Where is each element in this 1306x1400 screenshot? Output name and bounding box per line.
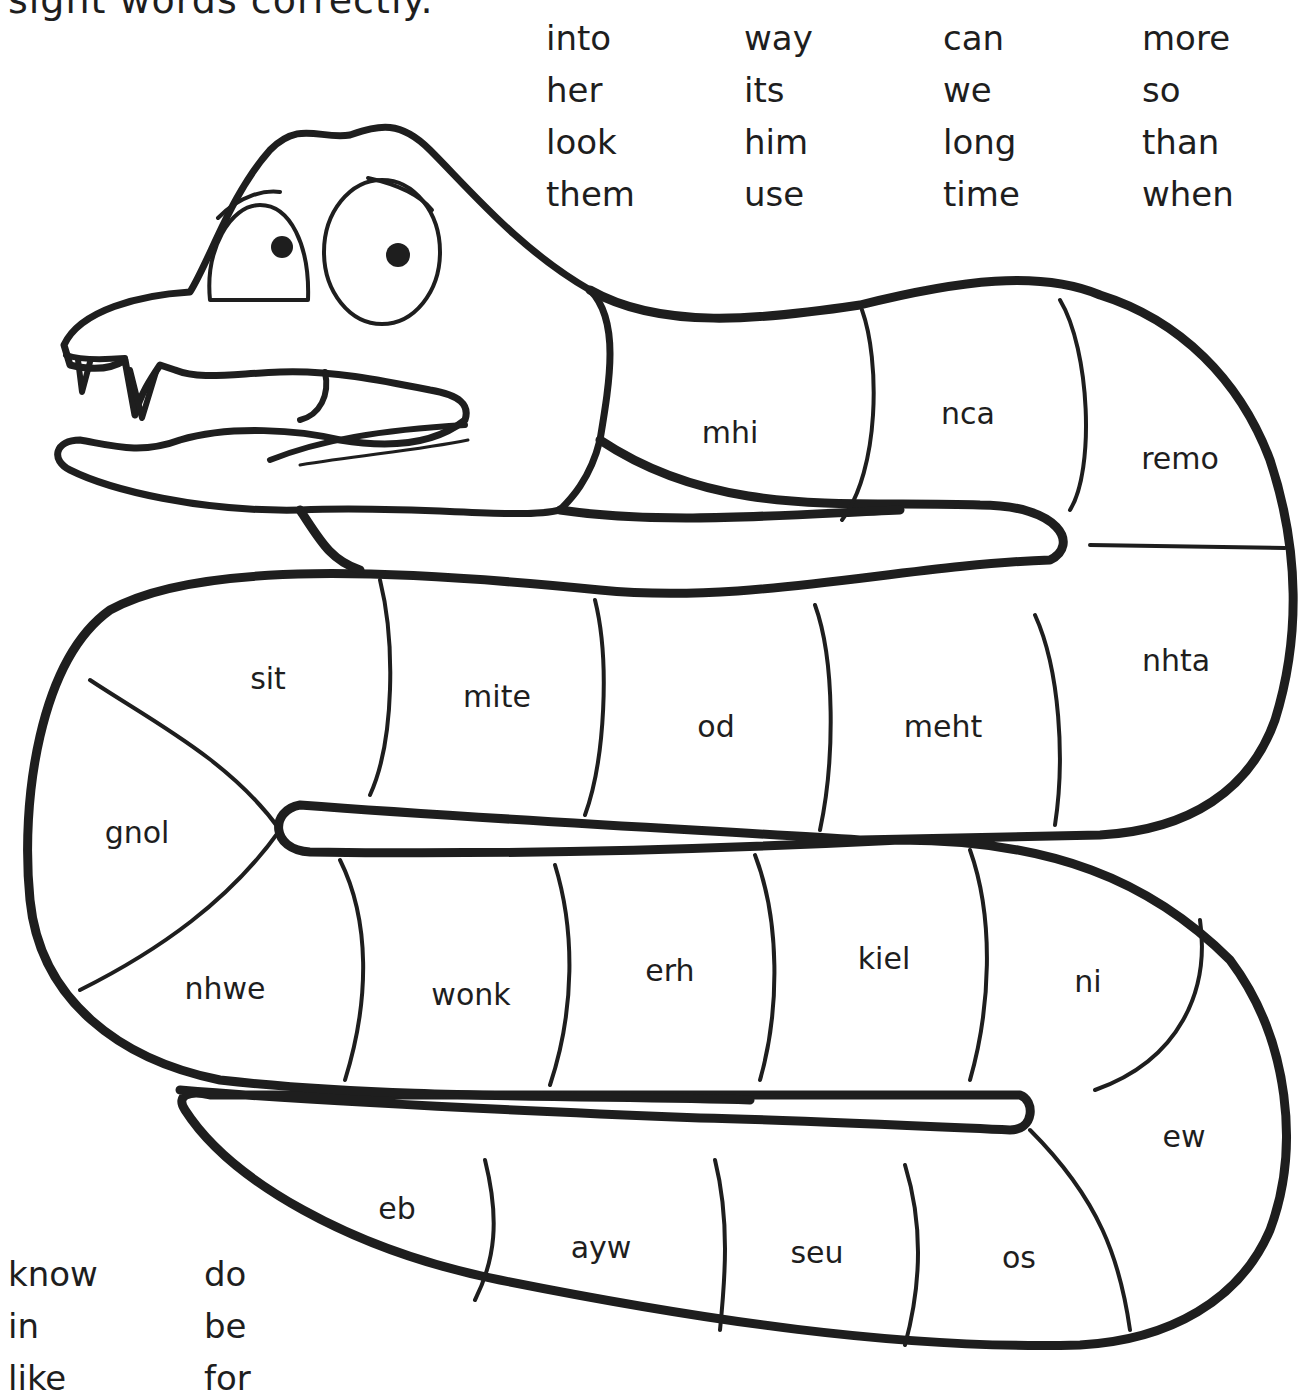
snake-segment-label[interactable]: od (687, 705, 744, 748)
snake-segment-label[interactable]: meht (894, 705, 992, 748)
snake-segment-label[interactable]: gnol (95, 811, 180, 854)
snake-segment-label[interactable]: nhta (1132, 639, 1220, 682)
snake-segment-label[interactable]: sit (240, 657, 296, 700)
snake-segment-label[interactable]: ew (1153, 1115, 1216, 1158)
pupil-right (386, 243, 410, 267)
snake-segment-label[interactable]: ayw (561, 1226, 642, 1269)
snake-segment-label[interactable]: ni (1064, 960, 1111, 1003)
snake-segment-label[interactable]: nca (931, 392, 1005, 435)
snake-segment-label[interactable]: erh (635, 949, 704, 992)
snake-segment-label[interactable]: kiel (848, 937, 921, 980)
snake-eyes (209, 178, 440, 324)
snake-segment-label[interactable]: os (992, 1236, 1046, 1279)
snake-segment-label[interactable]: eb (368, 1187, 426, 1230)
snake-body (28, 281, 1294, 1346)
snake-segment-label[interactable]: wonk (421, 973, 520, 1016)
snake-segment-label[interactable]: remo (1131, 437, 1229, 480)
snake-segment-label[interactable]: seu (780, 1231, 853, 1274)
snake-head (58, 127, 610, 513)
pupil-left (271, 236, 293, 258)
snake-segment-label[interactable]: mite (453, 675, 541, 718)
snake-segment-label[interactable]: nhwe (174, 967, 275, 1010)
snake-segment-label[interactable]: mhi (692, 411, 769, 454)
snake-illustration (0, 0, 1306, 1400)
